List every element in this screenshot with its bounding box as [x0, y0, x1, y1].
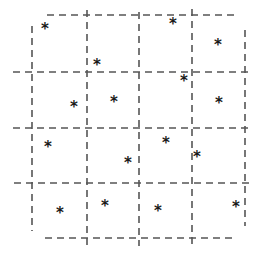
point-marker: * [41, 20, 49, 38]
point-marker: * [56, 204, 64, 222]
figure-container: **************** [0, 0, 258, 260]
point-marker: * [70, 98, 78, 116]
point-marker: * [110, 93, 118, 111]
point-marker: * [101, 197, 109, 215]
point-marker: * [232, 198, 240, 216]
point-marker: * [44, 138, 52, 156]
point-marker: * [124, 154, 132, 172]
point-marker: * [169, 15, 177, 33]
point-marker: * [214, 36, 222, 54]
point-marker: * [162, 134, 170, 152]
point-pattern-markers: **************** [41, 15, 240, 222]
point-marker: * [180, 72, 188, 90]
point-marker: * [93, 56, 101, 74]
point-marker: * [215, 94, 223, 112]
point-marker: * [154, 202, 162, 220]
point-marker: * [193, 148, 201, 166]
quadrat-scatter-plot: **************** [0, 0, 258, 260]
